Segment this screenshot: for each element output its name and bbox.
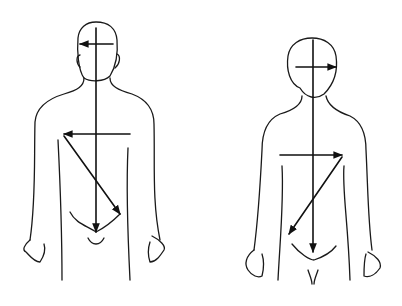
right-torso-side-left [278, 166, 283, 280]
right-diagonal-arrow [289, 157, 342, 234]
left-hip-line [70, 212, 120, 232]
left-hand-right [149, 236, 165, 262]
right-hip-line [292, 244, 336, 260]
left-head-outline [78, 22, 118, 81]
left-hand-left [24, 240, 45, 262]
left-groin [88, 238, 104, 244]
diagram-canvas [0, 0, 402, 306]
left-torso-side-left [58, 140, 62, 280]
right-figure [246, 38, 380, 284]
left-body-outline [30, 78, 160, 240]
right-torso-side-right [344, 166, 350, 280]
right-hand-right [364, 252, 380, 277]
body-diagram [0, 0, 402, 306]
right-hand-left [246, 250, 264, 277]
right-groin [308, 270, 318, 284]
left-torso-side-right [127, 148, 130, 280]
left-figure [24, 22, 164, 280]
left-diagonal-arrow [64, 136, 120, 214]
